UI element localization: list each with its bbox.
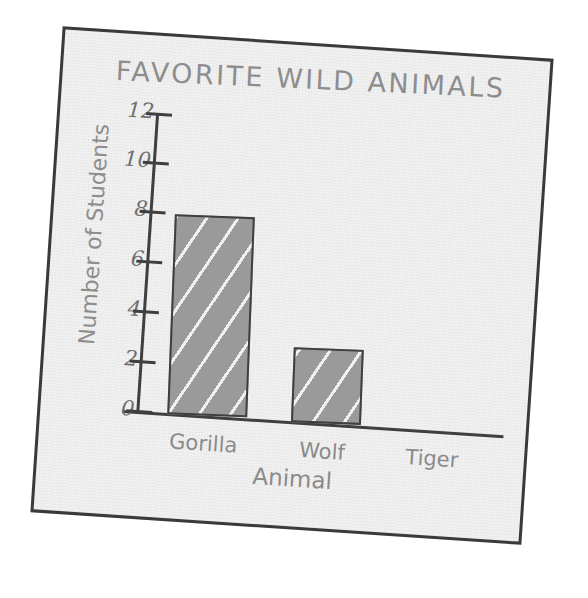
y-tick-label: 8 (134, 196, 149, 221)
bar-wolf (291, 347, 364, 425)
x-category-label-gorilla: Gorilla (148, 428, 259, 459)
y-tick-label: 2 (124, 346, 139, 371)
x-category-label-wolf: Wolf (273, 436, 370, 466)
x-category-label-tiger: Tiger (383, 443, 480, 473)
bars-group (139, 112, 518, 435)
y-tick-label: 10 (124, 147, 152, 173)
bar-gorilla (167, 214, 255, 417)
y-tick-label: 4 (127, 296, 142, 321)
y-axis-title: Number of Students (73, 104, 115, 365)
y-tick-label: 6 (130, 246, 145, 271)
paper-sheet: FAVORITE WILD ANIMALS Number of Students… (30, 26, 553, 545)
y-tick-label: 12 (127, 98, 155, 124)
chart-title: FAVORITE WILD ANIMALS (90, 54, 531, 105)
y-tick-label: 0 (120, 396, 135, 421)
plot-area: 12 10 8 6 4 2 (135, 106, 528, 460)
chart-screenshot: FAVORITE WILD ANIMALS Number of Students… (0, 0, 588, 598)
